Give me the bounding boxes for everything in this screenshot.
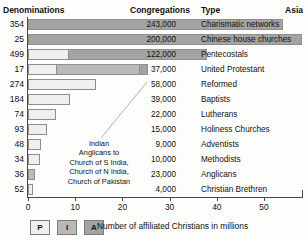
x-axis-tick (75, 197, 76, 201)
annotation-line-1: Indian (57, 139, 141, 148)
bar-segment-i (28, 169, 35, 180)
annotation-indian-anglicans: Indian Anglicans to Church of S India, C… (57, 139, 141, 186)
denomination-count: 499 (0, 47, 24, 62)
stacked-bar (28, 169, 35, 180)
legend-swatch-i[interactable]: I (57, 220, 77, 235)
legend-caption: Number of affiliated Christians in milli… (97, 221, 248, 231)
x-axis-tick-label: 40 (212, 202, 221, 212)
type-label: Holiness Churches (201, 122, 270, 137)
bar-segment-p (28, 184, 33, 195)
bar-segment-p (28, 94, 70, 105)
x-axis-line (27, 197, 303, 198)
chart-container: Denominations Congregations Type Asia 35… (0, 0, 306, 240)
congregations-value: 200,000 (124, 32, 176, 47)
type-label: Charismatic networks (201, 17, 279, 32)
x-axis-tick (264, 197, 265, 201)
stacked-bar (28, 124, 47, 135)
table-row: 3623,000Anglicans (0, 167, 306, 182)
x-axis-tick-label: 30 (165, 202, 174, 212)
denomination-count: 25 (0, 32, 24, 47)
stacked-bar (28, 49, 207, 60)
table-row: 524,000Christian Brethren (0, 182, 306, 197)
type-label: Chinese house churches (201, 32, 291, 47)
congregations-value: 58,000 (124, 77, 176, 92)
table-row: 25200,000Chinese house churches (0, 32, 306, 47)
table-row: 27458,000Reformed (0, 77, 306, 92)
table-row: 3410,000Methodists (0, 152, 306, 167)
stacked-bar (28, 94, 70, 105)
bar-segment-p (28, 124, 47, 135)
column-header-congregations: Congregations (130, 5, 190, 15)
stacked-bar (28, 154, 40, 165)
type-label: Reformed (201, 77, 237, 92)
congregations-value: 122,000 (124, 47, 176, 62)
denomination-count: 34 (0, 152, 24, 167)
table-row: 354243,000Charismatic networks (0, 17, 306, 32)
type-label: Adventists (201, 137, 239, 152)
congregations-value: 37,000 (124, 62, 176, 77)
denomination-count: 52 (0, 182, 24, 197)
denomination-count: 184 (0, 92, 24, 107)
table-row: 1737,000United Protestant (0, 62, 306, 77)
annotation-line-3: Church of S India, (57, 158, 141, 167)
denomination-count: 93 (0, 122, 24, 137)
type-label: Methodists (201, 152, 241, 167)
table-row: 7422,000Lutherans (0, 107, 306, 122)
annotation-line-2: Anglicans to (57, 148, 141, 157)
denomination-count: 354 (0, 17, 24, 32)
stacked-bar (28, 184, 33, 195)
bar-segment-p (28, 64, 56, 75)
type-label: Anglicans (201, 167, 237, 182)
congregations-value: 15,000 (124, 122, 176, 137)
table-row: 9315,000Holiness Churches (0, 122, 306, 137)
bar-segment-p (28, 139, 41, 150)
x-axis-tick (122, 197, 123, 201)
x-axis-tick-label: 20 (118, 202, 127, 212)
x-axis-tick-label: 0 (26, 202, 31, 212)
bar-segment-p (28, 79, 96, 90)
table-row: 18439,000Baptists (0, 92, 306, 107)
table-row: 489,000Adventists (0, 137, 306, 152)
legend: PIA (30, 220, 104, 235)
x-axis-tick (217, 197, 218, 201)
x-axis-tick (170, 197, 171, 201)
congregations-value: 39,000 (124, 92, 176, 107)
denomination-count: 36 (0, 167, 24, 182)
table-row: 499122,000Pentecostals (0, 47, 306, 62)
column-header-region: Asia (285, 5, 303, 15)
column-header-denominations: Denominations (3, 5, 64, 15)
bar-segment-p (28, 109, 56, 120)
column-header-type: Type (201, 5, 220, 15)
legend-swatch-p[interactable]: P (30, 220, 50, 235)
type-label: United Protestant (201, 62, 264, 77)
type-label: Christian Brethren (201, 182, 267, 197)
denomination-count: 74 (0, 107, 24, 122)
congregations-value: 243,000 (124, 17, 176, 32)
annotation-line-4: Church of N India, (57, 167, 141, 176)
stacked-bar (28, 139, 41, 150)
type-label: Pentecostals (201, 47, 248, 62)
type-label: Lutherans (201, 107, 237, 122)
x-axis-tick-label: 50 (259, 202, 268, 212)
denomination-count: 17 (0, 62, 24, 77)
denomination-count: 48 (0, 137, 24, 152)
congregations-value: 22,000 (124, 107, 176, 122)
type-label: Baptists (201, 92, 230, 107)
x-axis-tick (28, 197, 29, 201)
stacked-bar (28, 79, 96, 90)
annotation-line-5: Church of Pakistan (57, 177, 141, 186)
denomination-count: 274 (0, 77, 24, 92)
stacked-bar (28, 109, 56, 120)
bar-segment-p (28, 49, 68, 60)
bar-segment-p (28, 154, 40, 165)
x-axis-tick-label: 10 (71, 202, 80, 212)
